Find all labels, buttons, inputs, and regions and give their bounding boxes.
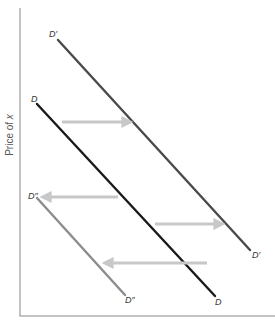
demand-curve-d-double-prime [37,198,125,295]
demand-curve-d-prime [58,40,250,250]
y-axis-label-prefix: Price of [4,119,15,156]
label-d-double-prime-top: D″ [28,192,38,201]
label-d-prime-top: D′ [49,30,57,39]
label-d-prime-bottom: D′ [252,251,260,260]
y-axis-label: Price of x [4,108,15,162]
demand-curve-d [37,104,215,296]
label-d-double-prime-bottom: D″ [125,296,135,305]
y-axis-label-var: x [4,114,15,119]
label-d-bottom: D [215,298,222,307]
label-d-top: D [31,95,38,104]
demand-shift-diagram [0,0,275,323]
